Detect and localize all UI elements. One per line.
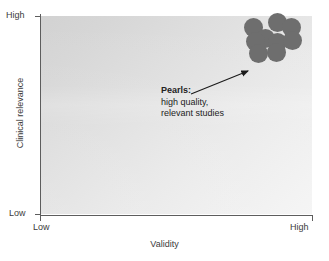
y-axis-title: Clinical relevance <box>15 33 25 193</box>
data-point <box>249 44 268 63</box>
y-axis-tick-high <box>35 16 41 17</box>
y-axis-label-high: High <box>6 10 25 21</box>
x-axis-label-low: Low <box>33 222 50 233</box>
y-axis-line <box>40 14 41 216</box>
annotation-line-2: relevant studies <box>161 108 224 120</box>
annotation-title: Pearls: <box>161 85 224 97</box>
x-axis-tick-high <box>312 215 313 221</box>
data-point <box>283 31 302 50</box>
y-axis-label-low: Low <box>9 208 26 219</box>
annotation-line-1: high quality, <box>161 97 224 109</box>
annotation-pearls: Pearls: high quality, relevant studies <box>161 85 224 120</box>
x-axis-tick-low <box>40 215 41 221</box>
data-point <box>267 43 286 62</box>
chart-figure: High Low Low High Validity Clinical rele… <box>0 0 329 261</box>
x-axis-title: Validity <box>0 239 329 249</box>
x-axis-line <box>40 215 313 216</box>
x-axis-label-high: High <box>290 222 309 233</box>
